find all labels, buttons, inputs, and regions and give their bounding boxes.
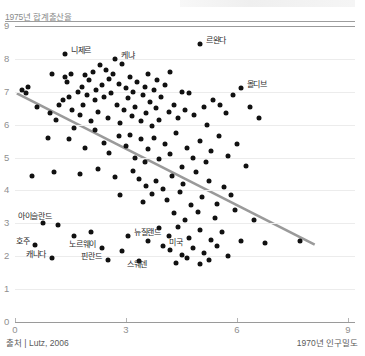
data-point [173,260,178,265]
gridline-y-5 [15,158,355,159]
data-point [149,124,154,129]
data-point [186,91,191,96]
data-point [216,134,221,139]
data-point [166,109,171,114]
x-tick-label-9: 9 [345,325,350,335]
data-point [114,102,119,107]
data-point [127,74,132,79]
data-point [179,165,184,170]
gridline-y-3 [15,223,355,224]
data-point [25,84,30,89]
data-point [48,111,53,116]
gridline-y-9 [15,26,355,27]
data-point [146,239,151,244]
data-point [142,84,147,89]
data-point [185,145,190,150]
data-point [81,102,86,107]
data-point [153,106,158,111]
data-point [198,42,203,47]
data-point [138,119,143,124]
point-label: 호주 [16,237,29,246]
data-point [201,250,206,255]
data-point [96,167,101,172]
y-tick-label-4: 4 [4,185,9,195]
point-label: 핀란드 [81,252,101,261]
data-point [46,135,51,140]
data-point [68,71,73,76]
x-tick-label-0: 0 [12,325,17,335]
data-point [188,203,193,208]
data-point [101,94,106,99]
data-point [133,155,138,160]
data-point [168,152,173,157]
data-point [24,91,29,96]
data-point [175,224,180,229]
data-point [53,117,58,122]
data-point [79,84,84,89]
data-point [159,94,164,99]
data-point [107,76,112,81]
data-point [116,81,121,86]
top-decorative-strip [180,0,355,7]
y-tick-label-9: 9 [4,21,9,31]
data-point [205,122,210,127]
data-point [144,111,149,116]
data-point [122,107,127,112]
data-point [218,102,223,107]
data-point [129,114,134,119]
data-point [225,153,230,158]
point-label: 캐나다 [26,250,46,259]
data-point [185,255,190,260]
data-point [72,234,77,239]
data-point [179,252,184,257]
point-label: 니제르 [71,46,91,55]
data-point [55,222,60,227]
data-point [257,116,262,121]
data-point [70,107,75,112]
data-point [175,116,180,121]
data-point [66,137,71,142]
x-tick-mark-9 [348,318,349,322]
data-point [148,99,153,104]
data-point [262,241,267,246]
data-point [168,247,173,252]
data-point [177,190,182,195]
data-point [238,86,243,91]
data-point [142,160,147,165]
data-point [251,218,256,223]
data-point [203,160,208,165]
data-point [183,218,188,223]
gridline-y-4 [15,190,355,191]
data-point [151,88,156,93]
data-point [238,239,243,244]
data-point [170,173,175,178]
data-point [125,234,130,239]
data-point [62,51,67,56]
data-point [40,221,45,226]
data-point [92,127,97,132]
data-point [168,70,173,75]
data-point [120,61,125,66]
point-label: 아이슬란드 [18,212,52,221]
data-point [77,112,82,117]
data-point [87,78,92,83]
point-label: 몰디브 [247,80,267,89]
data-point [214,244,219,249]
gridline-y-7 [15,92,355,93]
data-point [223,111,228,116]
data-point [198,139,203,144]
point-label: 미국 [169,238,182,247]
data-point [207,257,212,262]
data-point [199,195,204,200]
data-point [92,98,97,103]
data-point [77,172,82,177]
data-point [190,155,195,160]
data-point [140,93,145,98]
data-point [244,163,249,168]
gridline-y-6 [15,125,355,126]
data-point [116,134,121,139]
data-point [161,244,166,249]
data-point [131,89,136,94]
data-point [88,229,93,234]
data-point [57,102,62,107]
